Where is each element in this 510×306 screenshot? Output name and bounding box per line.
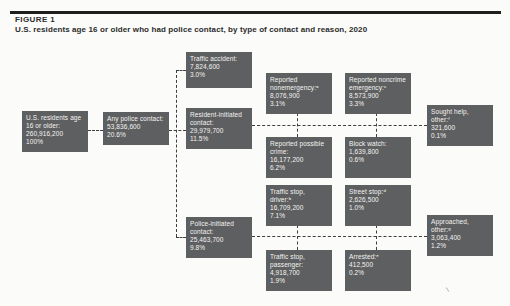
node-line: 0.2% <box>349 269 407 277</box>
node-reported-possible-crime: Reported possible crime: 16,177,200 6.2% <box>266 137 332 178</box>
node-line: 8,573,900 <box>349 92 407 100</box>
node-line: passenger: <box>270 261 328 269</box>
node-line: Traffic stop, <box>270 188 328 196</box>
node-line: 3.3% <box>349 100 407 108</box>
node-line: 2,626,500 <box>349 196 407 204</box>
node-line: Traffic stop, <box>270 253 328 261</box>
node-street-stop: Street stop:ᵈ 2,626,500 1.0% <box>345 185 411 226</box>
node-traffic-stop-passenger: Traffic stop, passenger: 4,918,700 1.9% <box>266 250 332 291</box>
scan-artifact <box>446 287 450 292</box>
node-line: 16 or older: <box>26 122 84 130</box>
node-reported-nonemergency: Reported nonemergency:ᵃ 8,076,900 3.1% <box>266 73 332 114</box>
node-line: 8,076,900 <box>270 92 328 100</box>
node-line: 53,836,600 <box>107 123 165 131</box>
node-line: 1,639,800 <box>349 148 407 156</box>
node-traffic-stop-driver: Traffic stop, driver:ᵇ 16,709,200 7.1% <box>266 185 332 226</box>
connector-to-police-initiated <box>176 237 186 238</box>
node-line: 412,500 <box>349 261 407 269</box>
node-line: contact: <box>190 119 248 127</box>
node-line: Reported <box>270 76 328 84</box>
node-line: Approached, <box>431 218 489 226</box>
node-line: crime: <box>270 148 328 156</box>
connector-streetstop-arrested <box>376 225 377 250</box>
figure-title: U.S. residents age 16 or older who had p… <box>15 25 495 34</box>
node-police-initiated-contact: Police-initiated contact: 25,463,700 9.8… <box>186 217 252 258</box>
node-line: 1.2% <box>431 242 489 250</box>
header-rule <box>10 11 501 14</box>
node-line: 321,600 <box>431 124 489 132</box>
node-line: Arrested:ᵉ <box>349 253 407 261</box>
node-line: 1.9% <box>270 277 328 285</box>
node-line: 1.0% <box>349 204 407 212</box>
node-line: 6.2% <box>270 164 328 172</box>
node-line: 260,916,200 <box>26 130 84 138</box>
node-line: emergency:ᶜ <box>349 84 407 92</box>
connector-vertical-main <box>176 70 177 237</box>
node-line: 100% <box>26 138 84 146</box>
node-block-watch: Block watch: 1,639,800 0.6% <box>345 137 411 178</box>
node-line: 7,824,600 <box>190 63 248 71</box>
node-any-police-contact: Any police contact: 53,836,600 20.6% <box>103 112 169 145</box>
node-line: 7.1% <box>270 212 328 220</box>
node-line: Reported possible <box>270 140 328 148</box>
node-us-residents: U.S. residents age 16 or older: 260,916,… <box>22 111 88 152</box>
node-line: 29,979,700 <box>190 127 248 135</box>
node-line: 9.8% <box>190 244 248 252</box>
node-approached-other: Approached, other:ᵍ 3,063,400 1.2% <box>427 215 493 256</box>
node-traffic-accident: Traffic accident: 7,824,600 3.0% <box>186 52 252 88</box>
connector-resident-branch <box>252 125 427 126</box>
node-line: 3,063,400 <box>431 234 489 242</box>
connector-residents-to-anycontact <box>88 130 103 131</box>
node-line: driver:ᵇ <box>270 196 328 204</box>
node-line: 0.1% <box>431 132 489 140</box>
node-line: U.S. residents age <box>26 114 84 122</box>
node-line: Police-initiated <box>190 220 248 228</box>
connector-police-branch <box>252 236 427 237</box>
node-line: 11.5% <box>190 135 248 143</box>
node-line: Block watch: <box>349 140 407 148</box>
node-line: Reported noncrime <box>349 76 407 84</box>
node-arrested: Arrested:ᵉ 412,500 0.2% <box>345 250 411 291</box>
node-line: 3.1% <box>270 100 328 108</box>
figure-label: FIGURE 1 <box>15 15 55 24</box>
node-line: 16,709,200 <box>270 204 328 212</box>
node-line: Any police contact: <box>107 115 165 123</box>
node-line: Resident-initiated <box>190 111 248 119</box>
node-line: 0.6% <box>349 156 407 164</box>
node-line: nonemergency:ᵃ <box>270 84 328 92</box>
node-line: Street stop:ᵈ <box>349 188 407 196</box>
node-line: 20.6% <box>107 131 165 139</box>
connector-to-traffic-accident <box>176 70 186 71</box>
node-line: 25,463,700 <box>190 236 248 244</box>
node-line: other:ᵍ <box>431 226 489 234</box>
connector-anycontact-to-resident-initiated <box>169 130 186 131</box>
node-line: 4,918,700 <box>270 269 328 277</box>
node-resident-initiated-contact: Resident-initiated contact: 29,979,700 1… <box>186 108 252 149</box>
node-reported-noncrime-emergency: Reported noncrime emergency:ᶜ 8,573,900 … <box>345 73 411 114</box>
node-line: 3.0% <box>190 71 248 79</box>
node-line: Traffic accident: <box>190 55 248 63</box>
connector-noncrime-blockwatch <box>376 113 377 137</box>
connector-nonemergency-possiblecrime <box>297 113 298 137</box>
node-line: Sought help, <box>431 108 489 116</box>
node-line: 16,177,200 <box>270 156 328 164</box>
node-line: contact: <box>190 228 248 236</box>
connector-driver-passenger <box>297 225 298 250</box>
figure-canvas: FIGURE 1 U.S. residents age 16 or older … <box>0 0 510 306</box>
node-sought-help-other: Sought help, other:ᶠ 321,600 0.1% <box>427 105 493 146</box>
node-line: other:ᶠ <box>431 116 489 124</box>
